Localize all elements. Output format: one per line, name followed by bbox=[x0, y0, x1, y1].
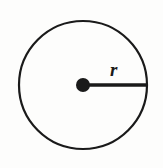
circle-radius-figure: r bbox=[0, 0, 163, 168]
radius-label: r bbox=[110, 59, 118, 80]
center-point-dot bbox=[76, 78, 90, 92]
figure-canvas: r bbox=[0, 0, 163, 168]
